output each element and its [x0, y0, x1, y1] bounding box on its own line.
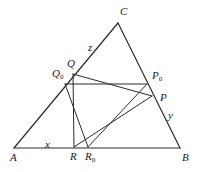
geometry-figure: A B C P Q R P0 Q0 R0 x y z: [0, 0, 198, 172]
triangle-P0Q0R0-R0Q0: [65, 84, 88, 147]
point-label-A: A: [10, 152, 17, 163]
point-label-B: B: [182, 152, 189, 163]
diagram-lines: [0, 0, 198, 172]
side-BC: [118, 23, 180, 148]
point-label-R0: R0: [85, 151, 95, 162]
point-label-C: C: [120, 6, 127, 17]
side-label-y: y: [168, 110, 173, 121]
point-label-Q: Q: [67, 58, 75, 69]
side-label-x: x: [45, 139, 50, 150]
point-label-R: R: [70, 151, 77, 162]
triangle-P0Q0R0-P0R0: [88, 84, 147, 147]
triangle-PQR-RQ: [73, 74, 74, 147]
point-label-P: P: [160, 92, 167, 103]
point-label-P0: P0: [152, 70, 162, 81]
side-label-z: z: [88, 42, 92, 53]
triangle-PQR-QP: [73, 74, 152, 96]
point-label-Q0: Q0: [52, 68, 63, 79]
